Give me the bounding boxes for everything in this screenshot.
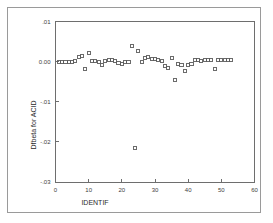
data-point bbox=[144, 57, 147, 60]
data-point bbox=[207, 58, 210, 61]
data-point bbox=[230, 58, 233, 61]
data-point bbox=[127, 60, 130, 63]
data-point bbox=[197, 58, 200, 61]
data-point bbox=[203, 58, 206, 61]
data-point bbox=[200, 59, 203, 62]
data-point bbox=[163, 64, 166, 67]
data-point bbox=[210, 59, 213, 62]
data-point bbox=[223, 58, 226, 61]
y-axis-title: Dfbeta for ACID bbox=[30, 100, 37, 149]
data-point bbox=[226, 58, 229, 61]
y-tick-label: -.02 bbox=[40, 139, 51, 145]
data-point bbox=[120, 62, 123, 65]
x-axis-title: IDENTIF bbox=[81, 199, 108, 206]
data-point bbox=[87, 52, 90, 55]
data-point bbox=[140, 61, 143, 64]
data-point bbox=[110, 58, 113, 61]
data-point bbox=[114, 59, 117, 62]
x-tick-label: 0 bbox=[54, 187, 58, 193]
data-point bbox=[147, 56, 150, 59]
data-point bbox=[90, 59, 93, 62]
data-point bbox=[97, 60, 100, 63]
data-point bbox=[150, 57, 153, 60]
y-tick-label: -.03 bbox=[40, 179, 51, 185]
y-tick-label: -.01 bbox=[40, 99, 51, 105]
data-point bbox=[220, 59, 223, 62]
data-point bbox=[160, 60, 163, 63]
x-tick-label: 10 bbox=[85, 187, 92, 193]
data-point-group bbox=[57, 44, 233, 149]
data-point bbox=[71, 60, 74, 63]
scatter-plot: .010.00-.01-.02-.03 0102030405060 Dfbeta… bbox=[0, 0, 273, 223]
data-point bbox=[84, 67, 87, 70]
x-tick-label: 30 bbox=[152, 187, 159, 193]
data-point bbox=[170, 57, 173, 60]
data-point bbox=[124, 60, 127, 63]
data-point bbox=[216, 58, 219, 61]
y-tick-label: .01 bbox=[42, 19, 51, 25]
data-point bbox=[77, 56, 80, 59]
data-point bbox=[67, 60, 70, 63]
data-point bbox=[104, 60, 107, 63]
data-point bbox=[130, 44, 133, 47]
data-point bbox=[180, 64, 183, 67]
x-tick-label: 40 bbox=[185, 187, 192, 193]
data-point bbox=[94, 60, 97, 63]
x-tick-label: 50 bbox=[218, 187, 225, 193]
data-point bbox=[167, 67, 170, 70]
x-axis-ticks: 0102030405060 bbox=[54, 179, 259, 193]
x-tick-label: 20 bbox=[118, 187, 125, 193]
data-point bbox=[107, 58, 110, 61]
data-point bbox=[173, 78, 176, 81]
data-point bbox=[117, 62, 120, 65]
data-point bbox=[134, 146, 137, 149]
data-point bbox=[177, 62, 180, 65]
data-point bbox=[74, 59, 77, 62]
chart-figure: .010.00-.01-.02-.03 0102030405060 Dfbeta… bbox=[0, 0, 273, 223]
x-tick-label: 60 bbox=[251, 187, 258, 193]
data-point bbox=[80, 55, 83, 58]
data-point bbox=[190, 62, 193, 65]
data-point bbox=[100, 63, 103, 66]
data-point bbox=[193, 59, 196, 62]
data-point bbox=[213, 67, 216, 70]
data-point bbox=[187, 63, 190, 66]
y-tick-label: 0.00 bbox=[39, 59, 51, 65]
plot-area-border bbox=[56, 22, 255, 183]
data-point bbox=[61, 60, 64, 63]
data-point bbox=[183, 70, 186, 73]
data-point bbox=[137, 49, 140, 52]
plot-frame bbox=[56, 22, 255, 183]
data-point bbox=[64, 60, 67, 63]
data-point bbox=[153, 58, 156, 61]
data-point bbox=[157, 58, 160, 61]
